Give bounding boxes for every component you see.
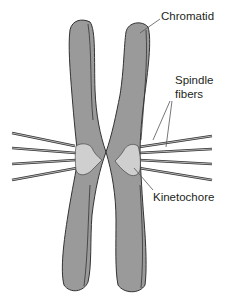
spindle-fiber-right-1 xyxy=(139,136,212,147)
spindle-fiber-left-3 xyxy=(12,160,76,164)
label-spindle-fibers-line1: Spindle xyxy=(175,74,213,86)
spindle-fiber-right-3 xyxy=(139,160,212,164)
spindle-fiber-left-4 xyxy=(12,168,77,180)
label-chromatid: Chromatid xyxy=(161,10,214,22)
spindle-fibers-right xyxy=(139,136,212,180)
label-spindle-fibers-line2: fibers xyxy=(175,88,203,100)
label-kinetochore: Kinetochore xyxy=(153,191,214,203)
spindle-fiber-right-2 xyxy=(139,149,212,153)
spindle-fibers-left xyxy=(12,133,77,180)
chromosome-diagram: Chromatid Spindle fibers Kinetochore xyxy=(0,0,225,301)
spindle-fiber-left-2 xyxy=(12,148,76,153)
spindle-fiber-left-1 xyxy=(12,133,75,146)
diagram-canvas: Chromatid Spindle fibers Kinetochore xyxy=(0,0,225,301)
spindle-fiber-right-4 xyxy=(139,168,212,180)
